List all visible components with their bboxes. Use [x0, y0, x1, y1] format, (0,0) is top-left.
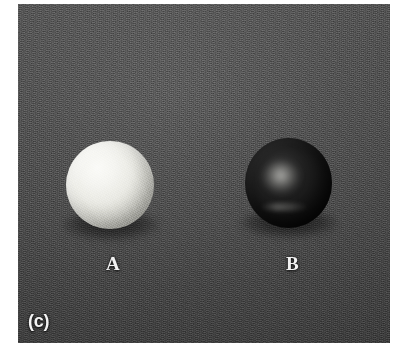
- photograph: A B (c): [18, 4, 390, 343]
- sphere-a-surface-texture: [66, 141, 154, 229]
- sphere-b-reflected-light-streak: [260, 203, 309, 211]
- sphere-b-glossy-dark: [245, 138, 332, 228]
- figure-panel: A B (c): [0, 0, 398, 359]
- sphere-a-matte-white: [66, 141, 154, 229]
- specimen-label-b: B: [286, 254, 299, 273]
- panel-letter-label: (c): [28, 312, 49, 330]
- sphere-b-specular-highlight: [263, 161, 300, 193]
- specimen-label-a: A: [106, 254, 120, 273]
